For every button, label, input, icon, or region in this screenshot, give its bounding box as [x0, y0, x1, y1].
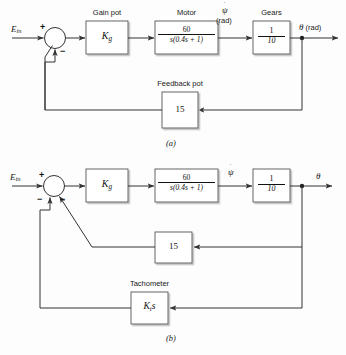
- gears-ratio-a: 1 10: [258, 27, 285, 46]
- motor-title-a: Motor: [156, 9, 217, 17]
- gears-ratio-b: 1 10: [258, 175, 285, 194]
- tachometer-body-b: Kts: [131, 302, 168, 312]
- feedback-pot-body-b: 15: [155, 242, 192, 251]
- motor-denominator-a: s(0.4s + 1): [158, 36, 215, 44]
- figure-root: Ein + − Gain pot Kg Motor 60 s(0.4s + 1)…: [0, 0, 346, 355]
- gears-denominator-b: 10: [258, 185, 285, 193]
- gears-title-a: Gears: [254, 9, 289, 17]
- summing-minus-2-b: −: [60, 195, 65, 204]
- caption-b: (b): [166, 333, 176, 343]
- psi-unit-a: (rad): [216, 17, 232, 25]
- summing-plus-b: +: [39, 171, 44, 180]
- summing-plus-a: +: [40, 23, 45, 32]
- motor-numerator-a: 60: [158, 26, 215, 34]
- caption-a: (a): [166, 138, 176, 148]
- gears-numerator-b: 1: [258, 175, 285, 183]
- input-label-b: Ein: [10, 173, 21, 183]
- motor-transfer-function-a: 60 s(0.4s + 1): [158, 26, 215, 44]
- motor-transfer-function-b: 60 s(0.4s + 1): [158, 174, 215, 192]
- summing-minus-1-b: −: [37, 195, 42, 204]
- psi-symbol-b: ̇ψ: [228, 168, 234, 177]
- feedback-pot-body-a: 15: [162, 105, 198, 114]
- psi-symbol-a: ̇ψ: [222, 6, 228, 15]
- gain-pot-body-b: Kg: [86, 179, 128, 191]
- input-label-a: Ein: [11, 25, 22, 35]
- tachometer-title-b: Tachometer: [117, 280, 182, 288]
- gain-pot-title-a: Gain pot: [87, 9, 127, 17]
- gain-pot-body-a: Kg: [86, 31, 128, 43]
- feedback-pot-title-a: Feedback pot: [152, 80, 208, 88]
- gears-numerator-a: 1: [258, 27, 285, 35]
- theta-output-a: θ (rad): [299, 23, 321, 32]
- motor-denominator-b: s(0.4s + 1): [158, 184, 215, 192]
- gears-denominator-a: 10: [258, 37, 285, 45]
- summing-minus-a: −: [60, 47, 65, 56]
- motor-numerator-b: 60: [158, 174, 215, 182]
- theta-output-b: θ: [316, 172, 320, 181]
